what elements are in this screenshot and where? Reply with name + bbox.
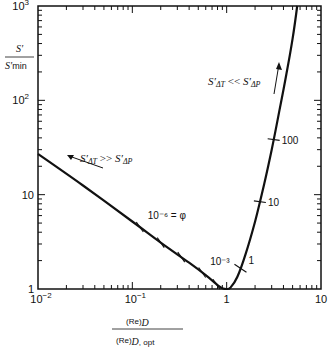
annotation-dP-dominant: S′ΔT << S′ΔP (208, 62, 282, 94)
phi-marker-label: 1 (248, 255, 254, 266)
tick-label: 10 (315, 293, 327, 305)
arrow-up-icon (276, 62, 282, 70)
phi-marker-label: 10⁻⁶ = φ (148, 210, 187, 221)
tick-label: 10−1 (125, 291, 147, 305)
phi-marker-tick (178, 252, 185, 262)
data-curve (38, 6, 297, 289)
phi-marker-tick (199, 268, 206, 278)
x-axis-title: (Re)D (Re)D, opt (112, 317, 183, 347)
plot-frame (38, 6, 321, 289)
x-axis-title-denominator: (Re)D, opt (116, 336, 155, 347)
tick-label: 10 (22, 189, 34, 201)
phi-markers: 10⁻⁶ = φ10⁻³110100 (136, 135, 298, 290)
tick-label: 103 (12, 0, 29, 12)
x-axis-title-numerator: (Re)D (126, 317, 150, 328)
axis-ticks (38, 6, 321, 289)
annotation-dT-dominant: S′ΔT >> S′ΔP (67, 152, 133, 168)
tick-label: 102 (12, 92, 29, 106)
y-axis-title: S′ S′min (5, 43, 34, 71)
tick-label: 1 (28, 283, 34, 295)
y-axis-title-numerator: S′ (16, 43, 24, 54)
phi-marker-label: 10 (268, 197, 280, 208)
phi-marker-label: 100 (282, 135, 299, 146)
phi-marker-label: 10⁻³ (210, 256, 230, 267)
chart: 10−210−1110110102103 10⁻⁶ = φ10⁻³110100 … (0, 0, 329, 347)
svg-text:S′ΔT >> S′ΔP: S′ΔT >> S′ΔP (80, 152, 133, 166)
phi-marker-tick (213, 279, 220, 289)
svg-text:S′ΔT << S′ΔP: S′ΔT << S′ΔP (208, 75, 261, 89)
axis-tick-labels: 10−210−1110110102103 (12, 0, 327, 305)
y-axis-title-denominator: S′min (5, 60, 27, 71)
phi-marker-tick (136, 222, 143, 232)
phi-marker-tick (157, 238, 164, 248)
tick-label: 1 (224, 293, 230, 305)
